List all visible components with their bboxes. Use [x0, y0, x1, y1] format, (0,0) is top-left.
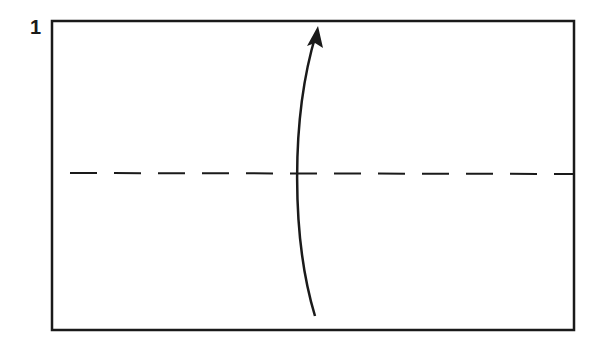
paper-sheet [52, 21, 574, 330]
valley-fold-line [70, 173, 573, 174]
arrowhead-icon [307, 26, 323, 48]
origami-diagram [0, 0, 605, 351]
fold-up-arrow-icon [297, 34, 316, 316]
